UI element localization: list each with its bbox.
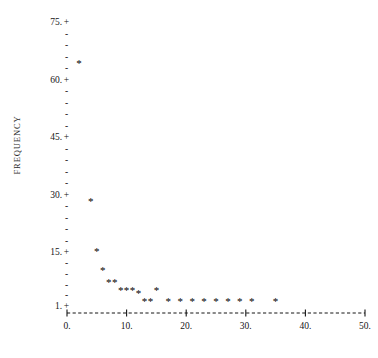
- data-point-marker: *: [213, 300, 219, 305]
- data-point: *: [148, 300, 153, 305]
- x-axis-tick-label: 10.: [121, 321, 133, 331]
- data-point: *: [94, 250, 99, 255]
- data-point-marker: *: [88, 200, 94, 205]
- data-point-marker: *: [225, 300, 231, 305]
- data-point: *: [178, 300, 183, 305]
- data-point-marker: *: [189, 300, 195, 305]
- data-point-marker: *: [166, 300, 172, 305]
- data-point-marker: *: [177, 300, 183, 305]
- data-point: *: [100, 269, 105, 274]
- data-point-marker: *: [154, 288, 160, 293]
- x-axis-rule: [0, 307, 378, 319]
- data-point: *: [154, 288, 159, 293]
- data-point: *: [106, 280, 111, 285]
- data-point: *: [214, 300, 219, 305]
- x-axis-tick-label: 40.: [299, 321, 311, 331]
- x-axis-tick-labels: 0.10.20.30.40.50.: [0, 321, 378, 333]
- data-point: *: [273, 300, 278, 305]
- data-point: *: [112, 280, 117, 285]
- data-point-marker: *: [106, 280, 112, 285]
- data-point-marker: *: [237, 300, 243, 305]
- data-points-layer: **********************: [0, 0, 378, 358]
- data-point: *: [136, 292, 141, 297]
- x-axis-line: [0, 307, 378, 319]
- data-point-marker: *: [118, 288, 124, 293]
- data-point: *: [202, 300, 207, 305]
- data-point: *: [166, 300, 171, 305]
- data-point: *: [118, 288, 123, 293]
- data-point-marker: *: [112, 280, 118, 285]
- data-point: *: [130, 288, 135, 293]
- data-point-marker: *: [94, 250, 100, 255]
- data-point-marker: *: [124, 288, 130, 293]
- data-point: *: [249, 300, 254, 305]
- data-point-marker: *: [201, 300, 207, 305]
- data-point: *: [190, 300, 195, 305]
- data-point-marker: *: [136, 292, 142, 297]
- data-point-marker: *: [148, 300, 154, 305]
- data-point-marker: *: [142, 300, 148, 305]
- data-point: *: [88, 200, 93, 205]
- data-point-marker: *: [76, 62, 82, 67]
- x-axis-tick-label: 20.: [180, 321, 192, 331]
- x-axis-tick-label: 50.: [359, 321, 371, 331]
- data-point-marker: *: [130, 288, 136, 293]
- data-point: *: [237, 300, 242, 305]
- data-point: *: [225, 300, 230, 305]
- data-point: *: [76, 62, 81, 67]
- x-axis-tick-label: 0.: [63, 321, 70, 331]
- data-point-marker: *: [273, 300, 279, 305]
- data-point: *: [142, 300, 147, 305]
- data-point: *: [124, 288, 129, 293]
- data-point-marker: *: [249, 300, 255, 305]
- data-point-marker: *: [100, 269, 106, 274]
- x-axis-tick-label: 30.: [240, 321, 252, 331]
- frequency-scatter-plot: FREQUENCY 75.+----60.+----45.+----30.+--…: [0, 0, 378, 358]
